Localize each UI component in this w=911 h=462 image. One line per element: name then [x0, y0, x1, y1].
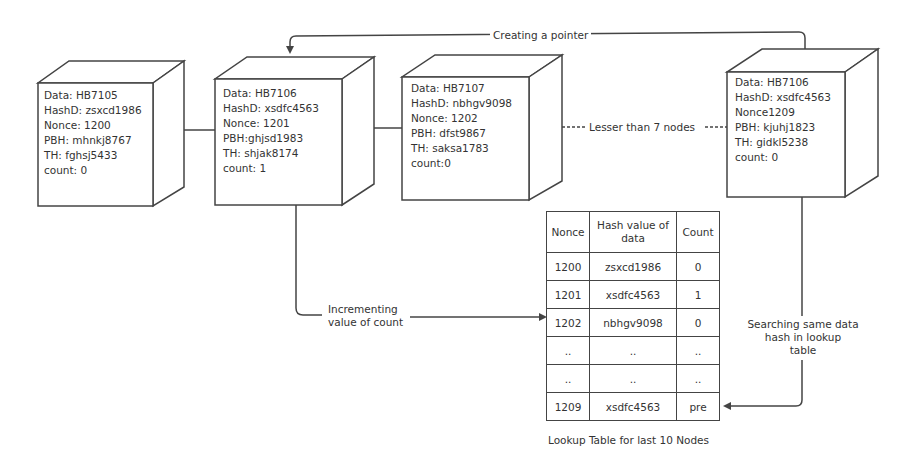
cell-count: ..	[677, 365, 720, 393]
block-4-data: Data: HB7106	[735, 75, 831, 90]
cell-nonce: 1201	[547, 281, 590, 309]
table-caption: Lookup Table for last 10 Nodes	[548, 434, 709, 446]
pointer-label: Creating a pointer	[490, 29, 591, 42]
cell-hash: zsxcd1986	[590, 253, 677, 281]
block-4-count: count: 0	[735, 150, 831, 165]
search-label-line-2: hash in lookup	[746, 331, 860, 344]
increment-label-line-1: Incrementing	[328, 303, 403, 316]
cell-nonce: ..	[547, 337, 590, 365]
search-label: Searching same data hash in lookup table	[746, 318, 860, 357]
cell-nonce: 1202	[547, 309, 590, 337]
search-label-line-1: Searching same data	[746, 318, 860, 331]
table-row: .. .. ..	[547, 337, 720, 365]
cell-hash: ..	[590, 337, 677, 365]
cell-nonce: 1209	[547, 393, 590, 421]
block-3-data: Data: HB7107	[411, 81, 512, 96]
block-2-hash: HashD: xsdfc4563	[223, 101, 319, 116]
header-count: Count	[677, 212, 720, 253]
increment-label-line-2: value of count	[328, 316, 403, 329]
cell-hash: xsdfc4563	[590, 281, 677, 309]
header-nonce: Nonce	[547, 212, 590, 253]
table-row: 1209 xsdfc4563 pre	[547, 393, 720, 421]
cell-count: 0	[677, 309, 720, 337]
cell-nonce: ..	[547, 365, 590, 393]
table-row: 1200 zsxcd1986 0	[547, 253, 720, 281]
block-1-th: TH: fghsj5433	[44, 148, 142, 163]
block-4-nonce: Nonce1209	[735, 105, 831, 120]
block-3-hash: HashD: nbhgv9098	[411, 96, 512, 111]
block-2-count: count: 1	[223, 161, 319, 176]
block-1-nonce: Nonce: 1200	[44, 118, 142, 133]
cell-hash: nbhgv9098	[590, 309, 677, 337]
gap-label: Lesser than 7 nodes	[589, 121, 695, 134]
header-hash: Hash value of data	[590, 212, 677, 253]
cell-count: pre	[677, 393, 720, 421]
block-4-hash: HashD: xsdfc4563	[735, 90, 831, 105]
cell-hash: ..	[590, 365, 677, 393]
block-4-pbh: PBH: kjuhj1823	[735, 120, 831, 135]
block-2-nonce: Nonce: 1201	[223, 116, 319, 131]
block-1-pbh: PBH: mhnkj8767	[44, 133, 142, 148]
cell-count: 0	[677, 253, 720, 281]
table-header-row: Nonce Hash value of data Count	[547, 212, 720, 253]
block-3-th: TH: saksa1783	[411, 141, 512, 156]
cell-nonce: 1200	[547, 253, 590, 281]
block-3-pbh: PBH: dfst9867	[411, 126, 512, 141]
lookup-table: Nonce Hash value of data Count 1200 zsxc…	[546, 211, 720, 421]
block-1-hash: HashD: zsxcd1986	[44, 103, 142, 118]
block-1-count: count: 0	[44, 163, 142, 178]
table-row: 1202 nbhgv9098 0	[547, 309, 720, 337]
block-2-pbh: PBH:ghjsd1983	[223, 131, 319, 146]
table-row: .. .. ..	[547, 365, 720, 393]
block-2-th: TH: shjak8174	[223, 146, 319, 161]
cell-count: ..	[677, 337, 720, 365]
block-3-nonce: Nonce: 1202	[411, 111, 512, 126]
cell-hash: xsdfc4563	[590, 393, 677, 421]
block-3-count: count:0	[411, 156, 512, 171]
table-row: 1201 xsdfc4563 1	[547, 281, 720, 309]
increment-label: Incrementing value of count	[328, 303, 403, 329]
connector-lines	[0, 0, 911, 462]
search-label-line-3: table	[746, 344, 860, 357]
cell-count: 1	[677, 281, 720, 309]
block-2-data: Data: HB7106	[223, 86, 319, 101]
block-1-data: Data: HB7105	[44, 88, 142, 103]
block-4-th: TH: gidkl5238	[735, 135, 831, 150]
